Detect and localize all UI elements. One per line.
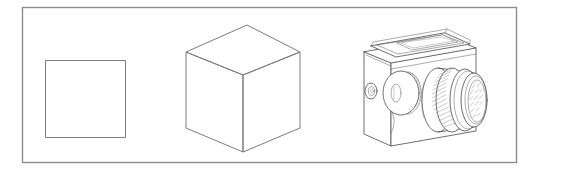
canvas-background (0, 0, 583, 172)
illustration-canvas: Geometric Shapes and Camera Line Drawing (0, 0, 583, 172)
figure-camera (364, 29, 487, 146)
camera-side-button (365, 83, 377, 99)
side-button-outer (365, 83, 377, 99)
lens-front-element (468, 80, 486, 122)
line-art-illustration (0, 0, 583, 172)
camera-lens (421, 68, 487, 132)
